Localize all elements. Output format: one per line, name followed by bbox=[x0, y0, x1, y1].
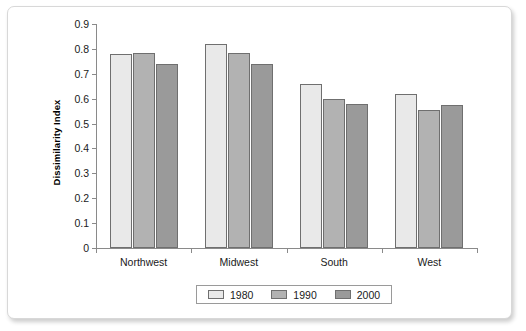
y-axis-line bbox=[96, 24, 97, 248]
legend-swatch-2000 bbox=[335, 290, 351, 299]
y-tick-mark bbox=[92, 148, 96, 149]
y-tick-label: 0.9 bbox=[74, 18, 89, 30]
bar-midwest-2000 bbox=[251, 64, 273, 248]
y-tick-label: 0.2 bbox=[74, 192, 89, 204]
x-category-label-south: South bbox=[320, 256, 347, 268]
x-tick-mark bbox=[287, 248, 288, 253]
bar-northwest-1990 bbox=[133, 53, 155, 248]
legend: 198019902000 bbox=[196, 285, 392, 304]
y-tick-mark bbox=[92, 49, 96, 50]
y-tick-mark bbox=[92, 173, 96, 174]
legend-item-1990[interactable]: 1990 bbox=[271, 289, 316, 301]
bar-south-1990 bbox=[323, 99, 345, 248]
bar-south-1980 bbox=[300, 84, 322, 248]
x-category-label-west: West bbox=[418, 256, 442, 268]
bar-midwest-1990 bbox=[228, 53, 250, 248]
y-tick-label: 0.3 bbox=[74, 167, 89, 179]
x-tick-mark bbox=[96, 248, 97, 253]
x-tick-mark bbox=[382, 248, 383, 253]
legend-label-1980: 1980 bbox=[230, 289, 253, 301]
x-category-label-midwest: Midwest bbox=[220, 256, 259, 268]
legend-label-1990: 1990 bbox=[293, 289, 316, 301]
bar-west-1990 bbox=[418, 110, 440, 248]
y-tick-mark bbox=[92, 223, 96, 224]
legend-label-2000: 2000 bbox=[357, 289, 380, 301]
x-tick-mark bbox=[191, 248, 192, 253]
y-tick-mark bbox=[92, 124, 96, 125]
legend-swatch-1990 bbox=[271, 290, 287, 299]
x-category-label-northwest: Northwest bbox=[120, 256, 167, 268]
bar-south-2000 bbox=[346, 104, 368, 248]
y-axis-title: Dissimilarity Index bbox=[51, 78, 62, 208]
bar-west-1980 bbox=[395, 94, 417, 248]
y-tick-label: 0.4 bbox=[74, 142, 89, 154]
y-tick-label: 0.1 bbox=[74, 217, 89, 229]
y-tick-mark bbox=[92, 198, 96, 199]
legend-item-1980[interactable]: 1980 bbox=[208, 289, 253, 301]
legend-item-2000[interactable]: 2000 bbox=[335, 289, 380, 301]
grouped-bar-chart: Dissimilarity Index 00.10.20.30.40.50.60… bbox=[0, 0, 526, 331]
y-tick-mark bbox=[92, 99, 96, 100]
y-tick-label: 0.5 bbox=[74, 118, 89, 130]
y-tick-label: 0.8 bbox=[74, 43, 89, 55]
bar-midwest-1980 bbox=[205, 44, 227, 248]
bar-northwest-1980 bbox=[110, 54, 132, 248]
plot-area: 00.10.20.30.40.50.60.70.80.9 NorthwestMi… bbox=[96, 24, 477, 248]
y-tick-label: 0.7 bbox=[74, 68, 89, 80]
y-tick-label: 0.6 bbox=[74, 93, 89, 105]
y-tick-mark bbox=[92, 24, 96, 25]
bar-west-2000 bbox=[441, 105, 463, 248]
legend-swatch-1980 bbox=[208, 290, 224, 299]
y-tick-mark bbox=[92, 74, 96, 75]
x-tick-mark bbox=[477, 248, 478, 253]
bar-northwest-2000 bbox=[156, 64, 178, 248]
y-tick-label: 0 bbox=[83, 242, 89, 254]
